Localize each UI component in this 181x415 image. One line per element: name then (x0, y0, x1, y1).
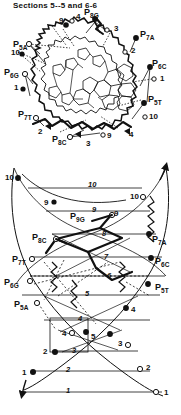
upper-panel-artwork (18, 16, 156, 139)
rung-number: 9 (92, 206, 96, 214)
residue-number: 10 (149, 113, 158, 121)
rung-number: 7 (104, 253, 108, 261)
rung-number: 10 (88, 181, 96, 189)
residue-number: 2 (38, 128, 42, 136)
label-p6c: P6C (152, 59, 166, 70)
residue-number: 10 (11, 49, 20, 57)
label-p6c-lower: P6C (155, 257, 169, 268)
label-p8c: P8C (52, 135, 66, 146)
vertex-number: 5 (91, 333, 95, 341)
label-p8c-lower: P8C (32, 233, 46, 244)
label-p5t: P5T (148, 95, 162, 106)
rung-number: 4 (78, 315, 82, 323)
vertex-number: 3 (118, 340, 122, 348)
residue-number: 1 (160, 75, 164, 83)
vertex-number: 4 (62, 330, 66, 338)
vertex-number: 1 (22, 369, 26, 377)
rung-number: 5 (85, 290, 89, 298)
vertex-number: 9 (114, 210, 118, 218)
lower-panel-artwork (12, 166, 169, 396)
label-p7t: P7T (18, 110, 32, 121)
vertex-number: 10 (130, 193, 139, 201)
residue-number: 1 (14, 84, 18, 92)
vertex-number: 1 (164, 389, 168, 397)
residue-number: 3 (86, 140, 90, 148)
residue-number: 4 (76, 13, 80, 21)
vertex-number: 2 (146, 364, 150, 372)
residue-number: 3 (114, 25, 118, 33)
vertex-number: 2 (43, 348, 47, 356)
label-p8g: P8G (84, 8, 99, 19)
label-p6g-lower: P6G (4, 278, 19, 289)
rung-number: 3 (72, 347, 76, 355)
label-p7a: P7A (140, 30, 154, 41)
rung-number: 8 (102, 230, 106, 238)
label-p7a-lower: P7A (152, 235, 166, 246)
label-p9g: P9G (70, 212, 85, 223)
label-p5a-lower: P5A (14, 300, 28, 311)
vertex-number: 4 (131, 306, 135, 314)
residue-number: 2 (131, 47, 135, 55)
vertex-number: 9 (44, 199, 48, 207)
rung-number: 1 (66, 387, 70, 395)
figure-root: Sections 5--5 and 6-6 (0, 0, 181, 415)
residue-number: 9 (107, 132, 111, 140)
label-p7t-lower: P7T (12, 255, 26, 266)
label-p6g: P6G (4, 68, 19, 79)
rung-number: 6 (107, 272, 111, 280)
residue-number: 9 (59, 17, 63, 25)
label-p5t-lower: P5T (155, 283, 169, 294)
residue-number: 4 (129, 131, 133, 139)
vertex-number: 10 (5, 174, 14, 182)
rung-number: 2 (66, 366, 70, 374)
